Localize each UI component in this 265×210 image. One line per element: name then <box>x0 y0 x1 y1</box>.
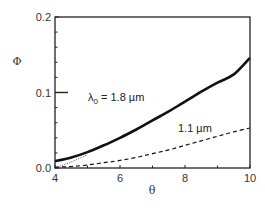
axes <box>55 17 250 168</box>
x-axis-label: θ <box>149 184 156 197</box>
plot-frame <box>55 17 250 168</box>
series-1-8um-line <box>55 58 250 161</box>
chart: 0.00.10.246810 θ Φ λ0 = 1.8 µm 1.1 µm <box>0 0 265 210</box>
y-tick-label: 0.0 <box>36 162 51 174</box>
lambda-value: = 1.8 µm <box>98 91 144 103</box>
y-tick-label: 0.1 <box>36 87 51 99</box>
x-tick-label: 8 <box>182 172 188 184</box>
x-tick-label: 4 <box>52 172 58 184</box>
y-axis-label: Φ <box>12 55 21 68</box>
annotation-1-1um: 1.1 µm <box>178 122 212 134</box>
x-tick-label: 6 <box>117 172 123 184</box>
series-1-1um-line <box>55 128 250 167</box>
y-tick-label: 0.2 <box>36 11 51 23</box>
plot-area <box>55 58 250 168</box>
x-tick-label: 10 <box>244 172 256 184</box>
annotation-1-8um: λ0 = 1.8 µm <box>88 91 144 106</box>
